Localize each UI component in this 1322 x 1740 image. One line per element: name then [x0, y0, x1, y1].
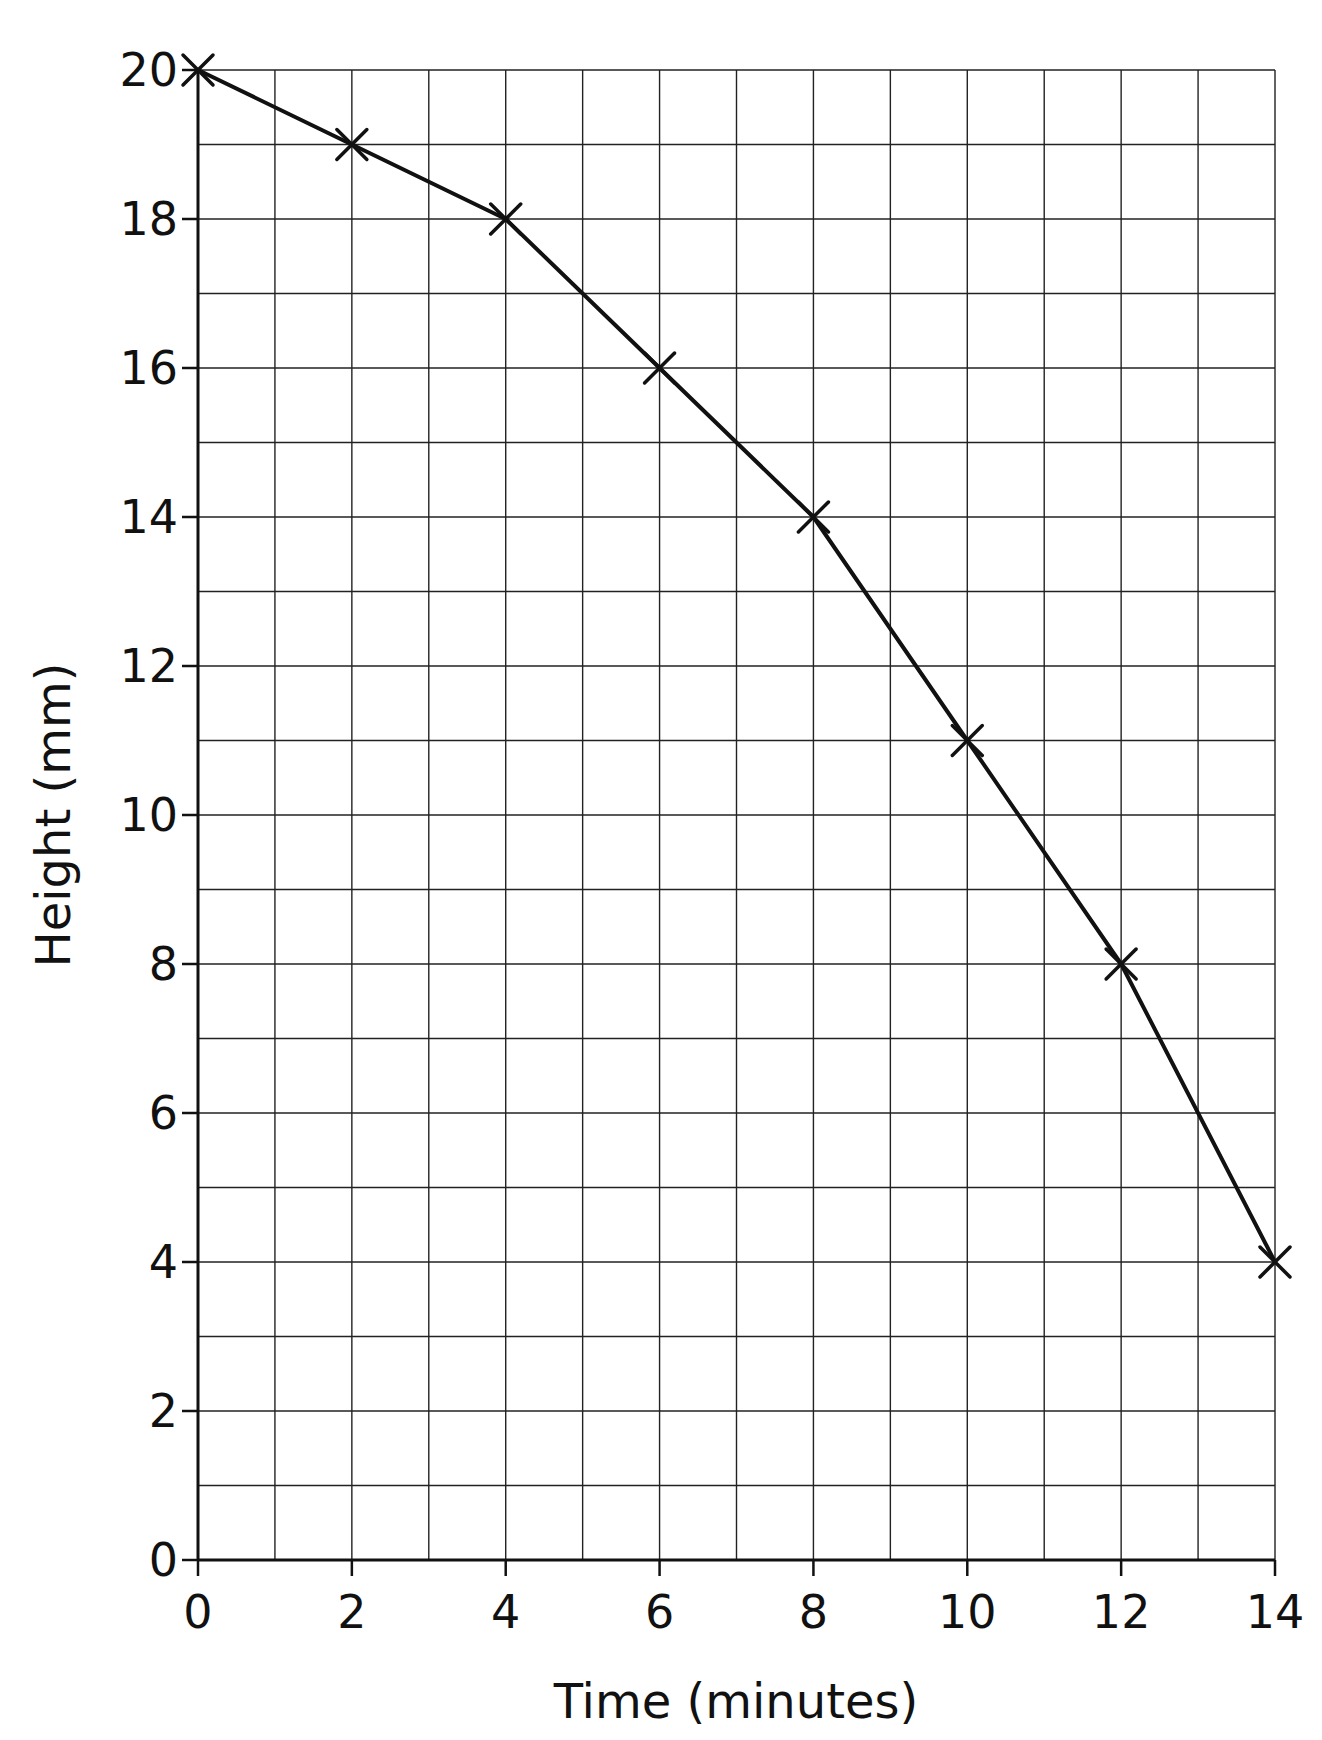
y-tick-label: 10 — [119, 788, 178, 842]
y-tick-label: 4 — [149, 1235, 178, 1289]
grid-lines — [198, 70, 1275, 1560]
x-axis-title: Time (minutes) — [553, 1673, 918, 1729]
x-tick-label: 0 — [183, 1585, 212, 1639]
x-tick-label: 2 — [337, 1585, 366, 1639]
line-chart: 02468101214 02468101214161820 Time (minu… — [0, 0, 1322, 1740]
x-tick-label: 14 — [1246, 1585, 1305, 1639]
y-tick-label: 18 — [119, 192, 178, 246]
y-tick-label: 0 — [149, 1533, 178, 1587]
y-tick-label: 14 — [119, 490, 178, 544]
y-tick-label: 6 — [149, 1086, 178, 1140]
y-axis-ticks: 02468101214161820 — [119, 43, 198, 1587]
x-tick-label: 10 — [938, 1585, 997, 1639]
y-tick-label: 16 — [119, 341, 178, 395]
y-axis-title: Height (mm) — [25, 663, 81, 968]
x-tick-label: 4 — [491, 1585, 520, 1639]
x-axis-ticks: 02468101214 — [183, 1560, 1304, 1639]
x-tick-label: 8 — [799, 1585, 828, 1639]
y-tick-label: 12 — [119, 639, 178, 693]
x-tick-label: 6 — [645, 1585, 674, 1639]
y-tick-label: 20 — [119, 43, 178, 97]
y-tick-label: 2 — [149, 1384, 178, 1438]
x-tick-label: 12 — [1092, 1585, 1151, 1639]
y-tick-label: 8 — [149, 937, 178, 991]
